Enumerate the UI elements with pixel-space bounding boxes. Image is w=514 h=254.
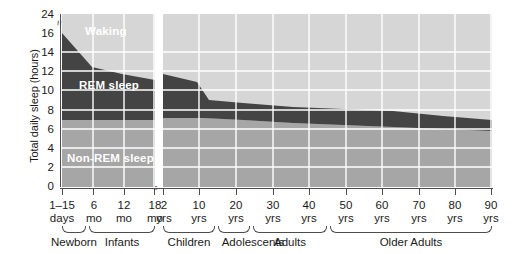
x-tick-mark-13: [491, 189, 492, 195]
x-tick-mark-1: [93, 189, 94, 195]
y-tick-label-4: 4: [32, 143, 54, 154]
y-tick-label-16: 16: [32, 28, 54, 39]
series-label-rem-sleep: REM sleep: [79, 79, 139, 91]
bracket-newborn: [62, 226, 86, 233]
bracket-adults: [253, 226, 327, 233]
group-label-infants: Infants: [90, 236, 154, 248]
x-tick-label-6mo-line1: 6: [80, 199, 108, 212]
x-tick-label-2yrs-line1: 2: [150, 199, 178, 212]
y-tick-label-8: 8: [32, 105, 54, 116]
x-tick-label-60yrs: 60 yrs: [368, 199, 396, 224]
y-tick-label-2: 2: [32, 162, 54, 173]
x-tick-label-12mo: 12 mo: [110, 199, 138, 224]
x-tick-label-6mo-line2: mo: [80, 212, 108, 225]
x-tick-label-70yrs: 70 yrs: [405, 199, 433, 224]
series-label-non-rem-sleep: Non-REM sleep: [67, 152, 154, 164]
x-tick-label-90yrs: 90 yrs: [477, 199, 505, 224]
x-tick-label-30yrs-line1: 30: [259, 199, 287, 212]
x-tick-mark-5: [199, 189, 200, 195]
x-tick-label-2yrs: 2 yrs: [150, 199, 178, 224]
x-tick-mark-12: [455, 189, 456, 195]
x-tick-label-70yrs-line2: yrs: [405, 212, 433, 225]
x-tick-mark-10: [382, 189, 383, 195]
y-tick-label-12: 12: [32, 66, 54, 77]
x-tick-label-90yrs-line1: 90: [477, 199, 505, 212]
x-tick-label-2yrs-line2: yrs: [150, 212, 178, 225]
x-tick-label-12mo-line1: 12: [110, 199, 138, 212]
bracket-infants: [89, 226, 155, 233]
x-tick-label-50yrs-line1: 50: [332, 199, 360, 212]
bracket-adolescents: [218, 226, 250, 233]
x-tick-mark-4: [163, 189, 164, 195]
x-tick-label-70yrs-line1: 70: [405, 199, 433, 212]
x-tick-label-30yrs: 30 yrs: [259, 199, 287, 224]
x-tick-label-6mo: 6 mo: [80, 199, 108, 224]
x-tick-label-20yrs-line1: 20: [222, 199, 250, 212]
plot-panel-childhood-to-older-adult: [163, 14, 492, 187]
x-tick-mark-11: [419, 189, 420, 195]
x-tick-label-10yrs-line2: yrs: [185, 212, 213, 225]
bracket-older-adults: [330, 226, 492, 233]
x-tick-label-12mo-line2: mo: [110, 212, 138, 225]
x-tick-label-10yrs: 10 yrs: [185, 199, 213, 224]
x-tick-mark-7: [273, 189, 274, 195]
x-tick-label-10yrs-line1: 10: [185, 199, 213, 212]
y-tick-label-0: 0: [32, 181, 54, 192]
x-tick-label-40yrs-line2: yrs: [295, 212, 323, 225]
group-label-adults: Adults: [259, 236, 321, 248]
y-tick-label-10: 10: [32, 85, 54, 96]
x-tick-mark-3: [154, 189, 155, 195]
x-tick-mark-9: [346, 189, 347, 195]
y-tick-label-14: 14: [32, 47, 54, 58]
x-tick-mark-6: [236, 189, 237, 195]
x-tick-mark-8: [309, 189, 310, 195]
x-tick-label-30yrs-line2: yrs: [259, 212, 287, 225]
x-tick-label-40yrs-line1: 40: [295, 199, 323, 212]
group-label-older-adults: Older Adults: [340, 236, 482, 248]
y-tick-label-24: 24: [32, 9, 54, 20]
sleep-chart-figure: Total daily sleep (hours) 24 16 14 12 10…: [0, 0, 514, 254]
x-tick-mark-0: [62, 189, 63, 195]
x-tick-label-20yrs: 20 yrs: [222, 199, 250, 224]
stacked-area-svg-right: [163, 14, 492, 187]
y-tick-label-6: 6: [32, 124, 54, 135]
x-tick-label-40yrs: 40 yrs: [295, 199, 323, 224]
x-tick-label-50yrs-line2: yrs: [332, 212, 360, 225]
bracket-children: [163, 226, 215, 233]
x-tick-mark-2: [124, 189, 125, 195]
x-tick-label-80yrs-line2: yrs: [441, 212, 469, 225]
x-tick-label-80yrs-line1: 80: [441, 199, 469, 212]
x-tick-label-50yrs: 50 yrs: [332, 199, 360, 224]
x-tick-label-60yrs-line2: yrs: [368, 212, 396, 225]
x-tick-label-60yrs-line1: 60: [368, 199, 396, 212]
x-tick-label-80yrs: 80 yrs: [441, 199, 469, 224]
series-label-waking: Waking: [85, 25, 127, 37]
x-tick-label-90yrs-line2: yrs: [477, 212, 505, 225]
x-tick-label-20yrs-line2: yrs: [222, 212, 250, 225]
